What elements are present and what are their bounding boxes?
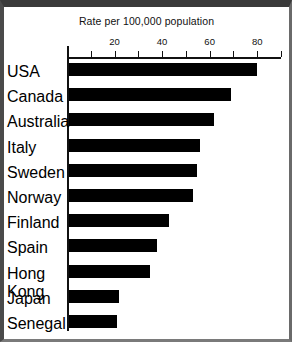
bar-row: Japan	[69, 290, 291, 303]
x-axis-line	[67, 57, 281, 59]
bar	[69, 239, 157, 252]
bar-row: Spain	[69, 239, 291, 252]
bar-row: Norway	[69, 189, 291, 202]
bar-row: USA	[69, 63, 291, 76]
bar	[69, 63, 257, 76]
x-axis: 20406080	[67, 46, 281, 59]
bar-row: Finland	[69, 214, 291, 227]
bar	[69, 315, 117, 328]
category-label: USA	[7, 63, 69, 81]
bar-row: Italy	[69, 139, 291, 152]
bar-row: Hong Kong	[69, 265, 291, 278]
bars-container: USACanadaAustraliaItalySwedenNorwayFinla…	[69, 63, 291, 342]
category-label: Senegal	[7, 315, 69, 333]
x-axis-tick-label: 40	[157, 36, 168, 47]
bar	[69, 139, 200, 152]
bar-row: Senegal	[69, 315, 291, 328]
x-axis-tick	[233, 51, 234, 57]
bar	[69, 290, 119, 303]
category-label: Sweden	[7, 164, 69, 182]
bar	[69, 189, 193, 202]
figure-frame: Rate per 100,000 population 20406080 USA…	[0, 0, 292, 342]
x-axis-tick	[186, 51, 187, 57]
category-label: Canada	[7, 88, 69, 106]
bar-row: Canada	[69, 88, 291, 101]
category-label: Italy	[7, 139, 69, 157]
plot-area: Rate per 100,000 population 20406080 USA…	[4, 7, 289, 339]
x-axis-tick-label: 60	[204, 36, 215, 47]
x-axis-tick	[210, 51, 211, 57]
bar-row: Sweden	[69, 164, 291, 177]
x-axis-tick	[115, 51, 116, 57]
bar	[69, 214, 169, 227]
x-axis-tick-label: 80	[252, 36, 263, 47]
category-label: Australia	[7, 113, 69, 131]
x-axis-tick-label: 20	[109, 36, 120, 47]
x-axis-tick	[281, 51, 282, 57]
x-axis-tick	[91, 51, 92, 57]
category-label: Japan	[7, 290, 69, 308]
chart-title: Rate per 100,000 population	[4, 15, 289, 27]
x-axis-tick	[257, 51, 258, 57]
bar	[69, 265, 150, 278]
x-axis-tick	[162, 51, 163, 57]
bar-row: Australia	[69, 113, 291, 126]
x-axis-tick	[138, 51, 139, 57]
category-label: Finland	[7, 214, 69, 232]
bar	[69, 113, 214, 126]
bar	[69, 88, 231, 101]
category-label: Spain	[7, 239, 69, 257]
bar	[69, 164, 197, 177]
category-label: Norway	[7, 189, 69, 207]
